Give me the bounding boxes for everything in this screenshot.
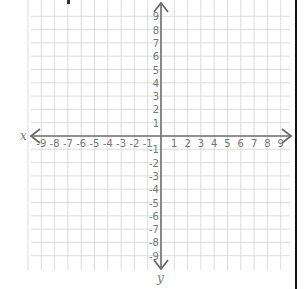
x-tick-label: 1 [171,138,177,149]
x-tick-label: -8 [50,138,60,149]
x-axis-label: x [20,129,27,143]
x-tick-label: 3 [198,138,204,149]
x-tick-label: 5 [224,138,230,149]
x-tick-label: -7 [63,138,73,149]
y-tick-label: 6 [153,51,159,62]
x-tick-label: -6 [76,138,86,149]
y-tick-label: -7 [149,224,159,235]
mark-decoration [67,0,70,4]
y-tick-label: 3 [153,91,159,102]
y-tick-label: -4 [149,184,159,195]
grid-lines [28,0,290,270]
x-tick-label: 2 [184,138,190,149]
y-tick-label: 1 [153,118,159,129]
y-tick-label: -2 [149,158,159,169]
x-tick-label: 6 [238,138,244,149]
x-tick-label: 8 [264,138,270,149]
x-tick-label: -3 [116,138,126,149]
y-tick-label: -6 [149,211,159,222]
x-tick-label: 4 [211,138,217,149]
x-tick-label: -9 [36,138,46,149]
y-tick-label: 5 [153,65,159,76]
y-tick-label: -5 [149,198,159,209]
y-tick-label: -1 [149,144,159,155]
axes [31,0,291,269]
y-tick-label: 2 [153,104,159,115]
y-axis-label: y [156,271,164,285]
y-tick-label: -8 [149,237,159,248]
y-tick-label: 4 [153,78,159,89]
page-border [295,0,297,289]
y-tick-label: -3 [149,171,159,182]
y-tick-label: 7 [153,38,159,49]
tick-labels: -9-8-7-6-5-4-3-2-1123456789987654321-1-2… [20,11,284,285]
coordinate-plane-svg: -9-8-7-6-5-4-3-2-1123456789987654321-1-2… [0,0,304,289]
x-tick-label: 7 [251,138,257,149]
x-tick-label: -5 [90,138,100,149]
x-tick-label: -4 [103,138,113,149]
x-tick-label: -2 [129,138,139,149]
y-tick-label: 9 [153,11,159,22]
y-tick-label: 8 [153,25,159,36]
y-tick-label: -9 [149,251,159,262]
x-tick-label: 9 [278,138,284,149]
